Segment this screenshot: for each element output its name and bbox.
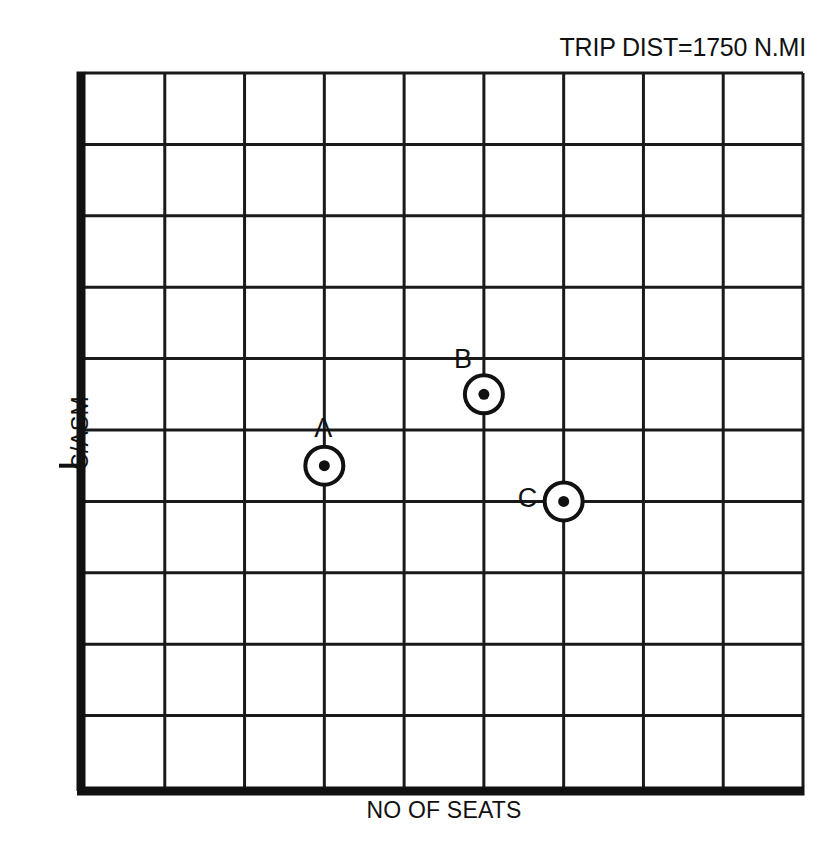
chart-title: TRIP DIST=1750 N.MI — [559, 33, 806, 62]
point-label-a: A — [314, 415, 332, 442]
data-point-b — [465, 375, 503, 413]
chart-figure: TRIP DIST=1750 N.MI ABC NO OF SEATS C/AS… — [0, 0, 836, 847]
data-point-c — [545, 482, 583, 520]
data-point-a — [305, 447, 343, 485]
grid-and-points — [85, 73, 803, 787]
gridlines — [85, 73, 803, 787]
y-axis-label: C/ASM — [67, 353, 94, 513]
data-point-markers — [305, 375, 582, 520]
plot-area — [85, 73, 803, 787]
x-axis-label: NO OF SEATS — [85, 797, 803, 824]
point-label-b: B — [454, 346, 472, 373]
point-label-c: C — [518, 485, 538, 512]
